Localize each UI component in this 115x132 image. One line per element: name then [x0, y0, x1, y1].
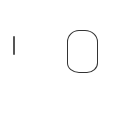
digit-one-stroke: 1: [13, 36, 15, 55]
digit-zero-stroke: 0: [67, 30, 98, 73]
digit-zero-label: 0: [68, 31, 69, 32]
digit-one-label: 1: [13, 36, 14, 37]
